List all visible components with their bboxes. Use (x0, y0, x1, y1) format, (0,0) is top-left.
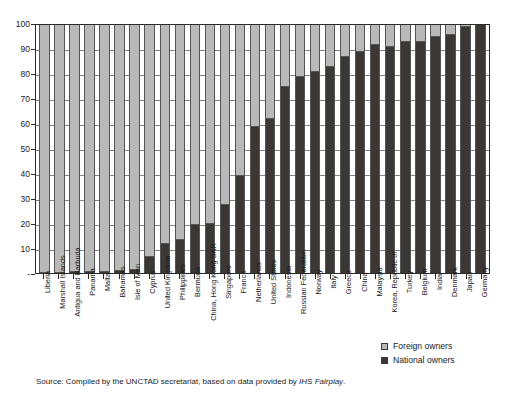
stacked-bar (280, 25, 291, 273)
bar-segment-foreign-owners (70, 25, 79, 272)
bar-segment-national-owners (266, 119, 275, 273)
x-axis-label: China, Hong Kong SAR (210, 243, 217, 321)
x-axis-label: Antigua and Barbuda (74, 247, 81, 316)
bar-segment-national-owners (326, 67, 335, 273)
bar-segment-national-owners (251, 127, 260, 273)
x-axis-label: Denmark (451, 267, 458, 297)
bar-segment-foreign-owners (85, 25, 94, 272)
bar-slot (338, 25, 353, 273)
x-label-slot: China, Hong Kong SAR (202, 279, 217, 369)
bar-segment-national-owners (401, 42, 410, 273)
bar-segment-national-owners (416, 42, 425, 273)
x-axis-label: Italy (330, 275, 337, 289)
x-label-slot: Malta (96, 279, 111, 369)
bar-segment-foreign-owners (311, 25, 320, 72)
bar-segment-foreign-owners (145, 25, 154, 257)
bar-segment-foreign-owners (176, 25, 185, 240)
stacked-bar (340, 25, 351, 273)
x-label-slot: Antigua and Barbuda (66, 279, 81, 369)
x-axis-label: Greece (345, 270, 352, 294)
bar-slot (187, 25, 202, 273)
bar-slot (278, 25, 293, 273)
bar-slot (323, 25, 338, 273)
bar-segment-foreign-owners (206, 25, 215, 224)
bar-slot (443, 25, 458, 273)
x-axis-label: Belgium (421, 269, 428, 296)
x-axis-label: Cyprus (149, 270, 156, 293)
bar-segment-foreign-owners (446, 25, 455, 35)
x-label-slot: Cyprus (142, 279, 157, 369)
x-axis-label: Netherlands (255, 262, 262, 302)
stacked-bar (430, 25, 441, 273)
bar-segment-national-owners (191, 225, 200, 273)
bar-series-group (36, 25, 489, 273)
bar-slot (293, 25, 308, 273)
bar-segment-foreign-owners (326, 25, 335, 67)
bar-slot (157, 25, 172, 273)
x-label-slot: Philippines (172, 279, 187, 369)
x-axis-label: India (436, 274, 443, 290)
bar-segment-foreign-owners (130, 25, 139, 270)
x-label-slot: Bermuda (187, 279, 202, 369)
x-axis-label: Panama (89, 268, 96, 296)
source-suffix: . (343, 377, 345, 386)
x-axis-label: Japan (466, 272, 473, 292)
x-axis-label: Philippines (179, 264, 186, 300)
y-tick-label: 80 (4, 70, 30, 79)
y-tick-label: 100 (4, 20, 30, 29)
bar-segment-foreign-owners (161, 25, 170, 244)
bar-slot (308, 25, 323, 273)
legend-swatch-national (381, 357, 388, 364)
bar-segment-foreign-owners (100, 25, 109, 272)
x-label-slot: Indonesia (278, 279, 293, 369)
bar-slot (112, 25, 127, 273)
x-axis-label: Turkey (406, 271, 413, 293)
legend-item: National owners (381, 353, 455, 367)
bar-segment-national-owners (371, 45, 380, 273)
x-axis-label: United States (270, 260, 277, 304)
source-prefix: Source: Compiled by the UNCTAD secretari… (36, 377, 299, 386)
x-axis-label: Singapore (225, 265, 232, 299)
stacked-bar (235, 25, 246, 273)
stacked-bar (99, 25, 110, 273)
bar-slot (458, 25, 473, 273)
bar-segment-national-owners (311, 72, 320, 273)
bar-slot (142, 25, 157, 273)
bar-segment-foreign-owners (40, 25, 49, 273)
legend-label: National owners (393, 353, 455, 367)
legend-swatch-foreign (381, 343, 388, 350)
x-axis-label: Bermuda (194, 267, 201, 297)
bar-slot (368, 25, 383, 273)
bar-segment-foreign-owners (296, 25, 305, 77)
bar-segment-foreign-owners (341, 25, 350, 57)
x-axis-label: France (240, 270, 247, 293)
stacked-bar (400, 25, 411, 273)
bar-segment-foreign-owners (416, 25, 425, 42)
bar-segment-foreign-owners (191, 25, 200, 225)
bar-segment-foreign-owners (431, 25, 440, 37)
legend-item: Foreign owners (381, 339, 455, 353)
x-axis-label: Norway (315, 269, 322, 294)
bar-slot (67, 25, 82, 273)
stacked-bar (355, 25, 366, 273)
bar-slot (52, 25, 67, 273)
y-tick-label: 10 (4, 245, 30, 254)
bar-slot (398, 25, 413, 273)
x-label-slot: Marshall Islands (51, 279, 66, 369)
x-label-slot: Germany (474, 279, 489, 369)
stacked-bar (250, 25, 261, 273)
stacked-bar (370, 25, 381, 273)
plot-area (35, 24, 490, 274)
x-label-slot: France (232, 279, 247, 369)
bar-segment-national-owners (431, 37, 440, 273)
x-axis-label: China (361, 272, 368, 291)
bar-segment-foreign-owners (55, 25, 64, 273)
stacked-bar (129, 25, 140, 273)
x-axis-label: Malaysia (376, 267, 383, 296)
source-provider: IHS Fairplay (299, 377, 343, 386)
x-label-slot: Singapore (217, 279, 232, 369)
x-axis-label: Marshall Islands (59, 255, 66, 308)
bar-slot (97, 25, 112, 273)
bar-slot (473, 25, 488, 273)
y-tick-label: 30 (4, 195, 30, 204)
